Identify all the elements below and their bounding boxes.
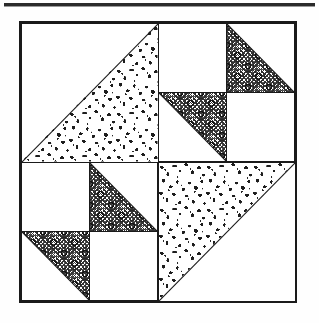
cell-hst-medallion — [158, 92, 227, 162]
patch-medallion-triangle — [159, 93, 226, 161]
cell-hst-medallion — [226, 23, 295, 93]
quadrant-bottom-left — [21, 162, 159, 302]
patch-cloud-triangle — [22, 24, 158, 162]
patch-medallion-triangle — [22, 232, 89, 300]
quilt-block-page — [0, 0, 319, 323]
quadrant-top-right — [158, 23, 296, 163]
cell-plain — [89, 231, 158, 301]
quadrant-bottom-right — [158, 162, 296, 302]
cell-plain — [21, 162, 90, 232]
cell-plain — [226, 92, 295, 162]
cell-hst-medallion — [21, 231, 90, 301]
patch-cloud-triangle — [159, 163, 295, 301]
four-patch-grid — [159, 24, 295, 162]
cell-hst-medallion — [89, 162, 158, 232]
quilt-block-frame — [19, 21, 297, 303]
quilt-block-grid — [21, 23, 295, 301]
header-rule-shadow — [4, 6, 315, 7]
cell-plain — [158, 23, 227, 93]
patch-medallion-triangle — [227, 24, 294, 92]
patch-medallion-triangle — [90, 163, 157, 231]
four-patch-grid — [22, 163, 158, 301]
quadrant-top-left — [21, 23, 159, 163]
